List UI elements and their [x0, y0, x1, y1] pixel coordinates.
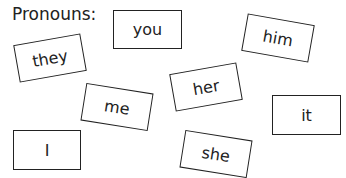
pronoun-card-him[interactable]: him: [241, 13, 315, 62]
worksheet-title: Pronouns:: [12, 3, 96, 25]
pronoun-card-i[interactable]: I: [13, 130, 81, 170]
card-label: you: [133, 20, 162, 39]
card-label: I: [45, 141, 50, 160]
pronoun-card-they[interactable]: they: [13, 33, 87, 82]
pronoun-card-her[interactable]: her: [169, 62, 243, 111]
pronoun-card-she[interactable]: she: [179, 130, 252, 178]
card-label: she: [201, 142, 232, 165]
card-label: they: [31, 46, 69, 71]
pronoun-card-you[interactable]: you: [113, 10, 182, 49]
card-label: it: [301, 106, 312, 125]
pronoun-card-me[interactable]: me: [80, 83, 153, 131]
card-label: her: [191, 75, 220, 98]
card-label: him: [261, 26, 294, 50]
pronoun-card-it[interactable]: it: [272, 95, 341, 135]
card-label: me: [103, 96, 131, 119]
